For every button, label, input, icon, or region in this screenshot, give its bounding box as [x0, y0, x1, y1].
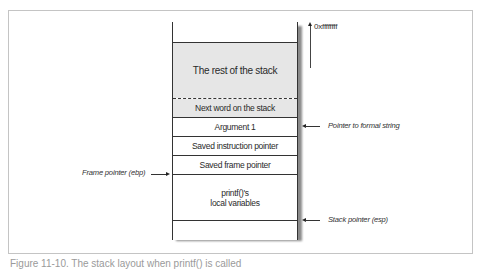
format-string-pointer-label: Pointer to formal string: [328, 121, 400, 130]
stack-row-next-word: Next word on the stack: [173, 99, 297, 117]
top-address-label: 0xffffffff: [314, 22, 337, 31]
arrow-up-icon: [308, 22, 312, 26]
stack-row-argument-1: Argument 1: [173, 118, 297, 136]
local-variables-label-line2: local variables: [210, 198, 259, 208]
argument-1-label: Argument 1: [215, 122, 256, 132]
stack-row-empty-bottom: [173, 221, 297, 240]
stack-pointer-label: Stack pointer (esp): [328, 215, 388, 224]
saved-instruction-pointer-label: Saved instruction pointer: [192, 141, 278, 151]
stack-row-saved-instruction-pointer: Saved instruction pointer: [173, 137, 297, 155]
format-string-pointer-arrow: [305, 126, 320, 127]
local-variables-label-line1: printf()'s: [221, 188, 248, 198]
figure-caption: Figure 11-10. The stack layout when prin…: [10, 258, 241, 269]
next-word-label: Next word on the stack: [195, 103, 275, 113]
frame-pointer-arrow: [151, 174, 166, 175]
stack-row-local-variables: printf()'s local variables: [173, 175, 297, 220]
stack-row-empty-top: [173, 22, 297, 42]
arrow-right-icon: [166, 172, 170, 176]
address-growth-arrow: [310, 25, 311, 68]
stack-pointer-arrow: [305, 220, 320, 221]
stack-diagram: The rest of the stack Next word on the s…: [172, 22, 298, 240]
saved-frame-pointer-label: Saved frame pointer: [200, 160, 271, 170]
rest-of-stack-label: The rest of the stack: [193, 66, 277, 76]
stack-row-saved-frame-pointer: Saved frame pointer: [173, 156, 297, 174]
frame-pointer-label: Frame pointer (ebp): [82, 168, 145, 177]
stack-row-rest-of-stack: The rest of the stack: [173, 43, 297, 98]
